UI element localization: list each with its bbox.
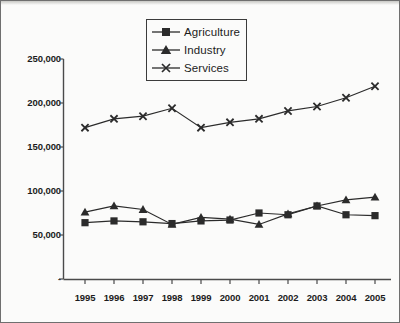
series-line-services — [81, 83, 378, 132]
data-point-marker — [255, 209, 262, 216]
data-point-marker — [371, 212, 378, 219]
x-tick-label: 1998 — [162, 292, 183, 303]
legend-triangle-marker-icon — [151, 43, 181, 57]
legend-item-services: Services — [151, 59, 240, 77]
x-tick-label: 1996 — [104, 292, 125, 303]
legend-label-services: Services — [181, 62, 229, 74]
x-tick-label: 2005 — [365, 292, 386, 303]
x-tick-label: 2003 — [307, 292, 328, 303]
chart-legend: Agriculture Industry Services — [146, 19, 247, 81]
x-tick-label: 1999 — [191, 292, 212, 303]
data-point-marker — [342, 211, 349, 218]
x-tick-label: 2001 — [249, 292, 270, 303]
data-point-marker — [226, 216, 233, 223]
data-point-marker — [284, 211, 291, 218]
legend-square-marker-icon — [151, 25, 181, 39]
data-point-marker — [81, 124, 88, 131]
legend-x-marker-icon — [151, 61, 181, 75]
data-point-marker — [342, 94, 349, 101]
x-tick-label: 2002 — [278, 292, 299, 303]
data-point-marker — [371, 83, 378, 90]
data-point-marker — [110, 202, 119, 210]
legend-label-industry: Industry — [181, 44, 226, 56]
chart-figure: 250,000 200,000 150,000 100,000 50,000 -… — [0, 0, 400, 323]
legend-label-agriculture: Agriculture — [181, 26, 240, 38]
data-point-marker — [371, 193, 380, 201]
legend-item-agriculture: Agriculture — [151, 23, 240, 41]
x-tick-label: 1995 — [75, 292, 96, 303]
x-tick-label: 2004 — [336, 292, 357, 303]
data-point-marker — [139, 218, 146, 225]
x-tick-label: 1997 — [133, 292, 154, 303]
data-point-marker — [168, 105, 175, 112]
axis-lines — [64, 59, 392, 280]
data-point-marker — [81, 219, 88, 226]
x-tick-label: 2000 — [220, 292, 241, 303]
legend-item-industry: Industry — [151, 41, 240, 59]
x-axis-tick-labels: 1995199619971998199920002001200220032004… — [1, 292, 400, 308]
data-point-marker — [197, 217, 204, 224]
data-point-marker — [168, 220, 175, 227]
data-point-marker — [110, 217, 117, 224]
data-point-marker — [313, 202, 320, 209]
